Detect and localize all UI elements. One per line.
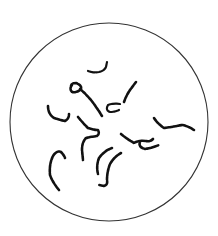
field-of-view-circle xyxy=(10,23,208,221)
field-svg xyxy=(0,0,218,236)
microscope-field-figure: Microscope field of view (circle) contai… xyxy=(0,0,218,236)
